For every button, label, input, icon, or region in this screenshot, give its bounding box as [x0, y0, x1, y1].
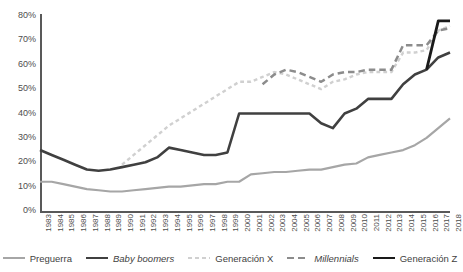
x-tick-label: 2006: [313, 214, 322, 248]
y-tick-label: 20%: [2, 157, 36, 166]
x-axis-tick-labels: 1983198419851986198719881989199019911992…: [40, 214, 450, 248]
x-tick-label: 2017: [442, 214, 451, 248]
x-tick-label: 2015: [419, 214, 428, 248]
x-tick-label: 1984: [56, 214, 65, 248]
x-tick-label: 1995: [185, 214, 194, 248]
legend-swatch-icon: [373, 257, 395, 260]
legend-item[interactable]: Preguerra: [3, 253, 72, 264]
x-tick-label: 2009: [349, 214, 358, 248]
series-line: [122, 26, 450, 165]
series-line: [40, 118, 450, 191]
legend-swatch-icon: [3, 257, 25, 260]
x-tick-label: 2008: [337, 214, 346, 248]
x-tick-label: 2007: [325, 214, 334, 248]
x-tick-label: 1990: [126, 214, 135, 248]
x-tick-label: 2018: [454, 214, 463, 248]
x-tick-label: 2005: [302, 214, 311, 248]
y-tick-label: 30%: [2, 133, 36, 142]
x-tick-label: 2016: [431, 214, 440, 248]
x-tick-label: 1999: [231, 214, 240, 248]
x-tick-label: 2004: [290, 214, 299, 248]
x-tick-label: 1986: [79, 214, 88, 248]
y-tick-label: 40%: [2, 109, 36, 118]
x-tick-label: 2012: [384, 214, 393, 248]
x-tick-label: 2001: [255, 214, 264, 248]
x-tick-label: 2000: [243, 214, 252, 248]
y-tick-label: 60%: [2, 60, 36, 69]
x-tick-label: 1989: [114, 214, 123, 248]
y-tick-label: 70%: [2, 35, 36, 44]
x-tick-label: 1985: [67, 214, 76, 248]
y-axis-tick-labels: 0%10%20%30%40%50%60%70%80%: [0, 0, 36, 224]
legend-swatch-icon: [188, 257, 210, 259]
x-tick-label: 1997: [208, 214, 217, 248]
legend-label: Baby boomers: [113, 253, 174, 264]
y-tick-label: 80%: [2, 11, 36, 20]
legend-item[interactable]: Generación X: [188, 253, 273, 264]
x-tick-label: 1993: [161, 214, 170, 248]
x-tick-label: 1983: [44, 214, 53, 248]
x-tick-label: 2002: [267, 214, 276, 248]
x-tick-label: 2014: [407, 214, 416, 248]
x-tick-label: 1991: [138, 214, 147, 248]
x-tick-label: 1998: [220, 214, 229, 248]
chart-legend: PreguerraBaby boomersGeneración XMillenn…: [0, 248, 460, 268]
x-tick-label: 1996: [196, 214, 205, 248]
legend-item[interactable]: Generación Z: [373, 253, 458, 264]
y-tick-label: 50%: [2, 84, 36, 93]
legend-item[interactable]: Millennials: [287, 253, 358, 264]
plot-area: [40, 16, 450, 211]
x-axis-line: [40, 211, 450, 213]
series-lines: [40, 16, 450, 211]
x-tick-label: 1988: [103, 214, 112, 248]
x-tick-label: 1987: [91, 214, 100, 248]
x-tick-label: 2013: [395, 214, 404, 248]
x-tick-label: 1994: [173, 214, 182, 248]
x-tick-label: 2011: [372, 214, 381, 248]
legend-item[interactable]: Baby boomers: [86, 253, 174, 264]
y-tick-label: 0%: [2, 206, 36, 215]
y-tick-label: 10%: [2, 182, 36, 191]
legend-label: Millennials: [314, 253, 358, 264]
legend-swatch-icon: [287, 257, 309, 259]
legend-label: Generación X: [215, 253, 273, 264]
legend-label: Preguerra: [30, 253, 72, 264]
x-tick-label: 2010: [360, 214, 369, 248]
legend-label: Generación Z: [400, 253, 458, 264]
x-tick-label: 1992: [149, 214, 158, 248]
series-line: [263, 28, 450, 84]
legend-swatch-icon: [86, 257, 108, 260]
x-tick-label: 2003: [278, 214, 287, 248]
